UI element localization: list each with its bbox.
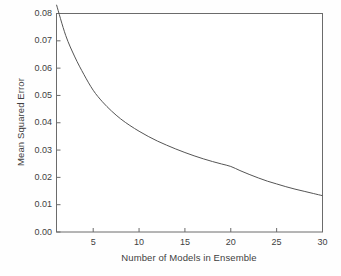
chart-figure: 0.000.010.020.030.040.050.060.070.08 510… — [0, 0, 341, 276]
x-tick-label: 10 — [126, 238, 152, 247]
x-tick-label: 20 — [218, 238, 244, 247]
x-tick-label: 25 — [264, 238, 290, 247]
x-tick-label: 30 — [310, 238, 336, 247]
x-tick-label: 5 — [80, 238, 106, 247]
x-axis-title: Number of Models in Ensemble — [56, 252, 322, 263]
x-axis-tick-labels: 51015202530 — [0, 238, 341, 252]
plot-frame — [57, 14, 323, 233]
x-tick-label: 15 — [172, 238, 198, 247]
y-axis-title: Mean Squared Error — [14, 6, 28, 238]
